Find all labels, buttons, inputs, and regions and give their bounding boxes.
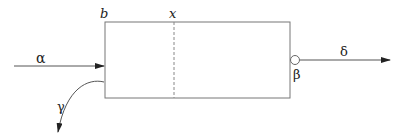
label-x: x	[169, 6, 177, 21]
gamma-arrow	[58, 81, 104, 132]
label-delta: δ	[340, 44, 348, 59]
diagram-canvas: b x α β γ δ	[0, 0, 399, 140]
beta-port-icon	[291, 56, 300, 65]
block-rectangle	[105, 22, 290, 98]
label-beta: β	[293, 67, 301, 82]
label-b: b	[100, 6, 108, 21]
label-gamma: γ	[57, 99, 65, 114]
label-alpha: α	[36, 50, 46, 66]
